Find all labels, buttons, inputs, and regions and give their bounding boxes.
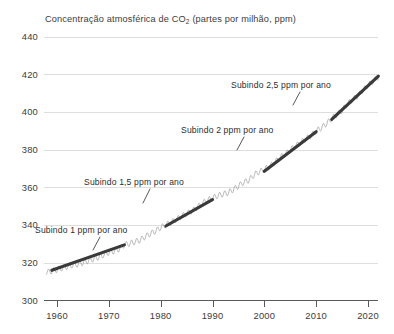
x-axis-ticks <box>58 301 369 307</box>
trend-segment-2ppm <box>264 132 316 172</box>
annotation-2ppm-leader-line <box>237 137 244 150</box>
chart-canvas: 300320340360380400420440 196019701980199… <box>0 0 394 334</box>
x-tick-label-2020: 2020 <box>357 310 379 321</box>
y-tick-label-320: 320 <box>22 257 38 268</box>
y-tick-label-300: 300 <box>22 295 38 306</box>
y-tick-label-360: 360 <box>22 182 38 193</box>
x-tick-label-2000: 2000 <box>254 310 276 321</box>
annotation-1-5ppm-leader-line <box>143 189 150 203</box>
annotation-1ppm-label: Subindo 1 ppm por ano <box>35 225 128 235</box>
x-tick-label-1970: 1970 <box>98 310 120 321</box>
annotation-1ppm-leader-line <box>93 237 100 250</box>
co2-concentration-chart: 300320340360380400420440 196019701980199… <box>0 0 394 334</box>
x-tick-label-1980: 1980 <box>150 310 172 321</box>
x-tick-label-1960: 1960 <box>46 310 68 321</box>
y-tick-label-400: 400 <box>22 106 38 117</box>
trend-segments-group <box>52 76 379 270</box>
trend-segment-1ppm <box>52 245 125 270</box>
y-axis-tick-labels: 300320340360380400420440 <box>22 31 38 306</box>
trend-segment-1-5ppm <box>166 200 213 226</box>
y-tick-label-380: 380 <box>22 144 38 155</box>
x-axis-tick-labels: 1960197019801990200020102020 <box>46 310 379 321</box>
annotation-2-5ppm-label: Subindo 2,5 ppm por ano <box>231 80 331 90</box>
annotations-group: Subindo 1 ppm por anoSubindo 1,5 ppm por… <box>35 80 331 250</box>
y-tick-label-440: 440 <box>22 31 38 42</box>
annotation-2-5ppm-leader-line <box>293 92 300 105</box>
annotation-2ppm-label: Subindo 2 ppm por ano <box>181 125 274 135</box>
annotation-1-5ppm-label: Subindo 1,5 ppm por ano <box>84 177 184 187</box>
x-tick-label-2010: 2010 <box>305 310 327 321</box>
chart-title: Concentração atmosférica de CO2 (partes … <box>45 14 296 25</box>
y-tick-label-420: 420 <box>22 69 38 80</box>
x-tick-label-1990: 1990 <box>202 310 224 321</box>
